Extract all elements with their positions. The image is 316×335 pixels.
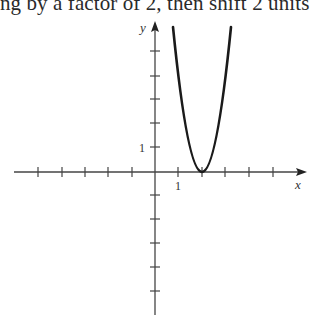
x-axis-label: x	[294, 177, 301, 192]
x-tick-label-1: 1	[175, 179, 181, 193]
parabola-curve	[173, 27, 231, 172]
y-tick-label-1: 1	[139, 141, 145, 155]
coordinate-graph: y x 1 1	[0, 0, 316, 335]
y-axis-label: y	[138, 20, 146, 35]
